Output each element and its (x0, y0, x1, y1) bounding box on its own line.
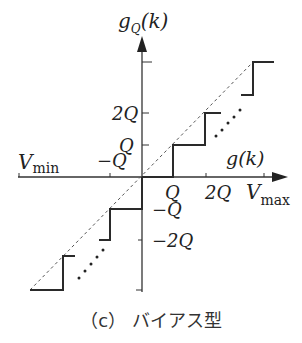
y-label-q: Q (119, 135, 134, 156)
figure-caption: （c） バイアス型 (80, 310, 222, 331)
staircase-positive (142, 113, 221, 177)
y-axis (136, 36, 152, 292)
y-axis-label: gQ(k) (118, 9, 168, 36)
y-label-2q: 2Q (111, 103, 138, 124)
ellipsis-dots-lower (78, 249, 105, 280)
staircase-bottom-step (30, 256, 75, 290)
x-label-vmin: Vmin (18, 150, 59, 176)
y-label-neg-2q: −2Q (152, 230, 194, 251)
staircase-top-step (241, 62, 274, 95)
bias-quantizer-diagram: gQ(k) g(k) Vmin −Q Q 2Q Vmax 2Q Q −Q −2Q… (0, 0, 302, 343)
x-label-2q: 2Q (204, 182, 231, 203)
y-label-neg-q: −Q (152, 199, 182, 220)
x-label-vmax: Vmax (246, 180, 290, 208)
x-axis-label: g(k) (226, 147, 265, 169)
y-axis-arrow-icon (137, 36, 147, 52)
staircase-negative (99, 177, 142, 240)
x-axis-arrow-icon (272, 172, 288, 182)
